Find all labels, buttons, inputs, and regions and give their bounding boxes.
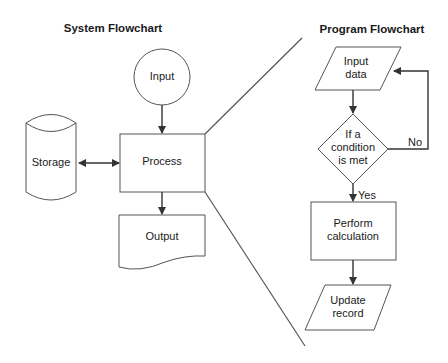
program-input-label-1: Input — [344, 55, 368, 67]
program-decision-label-2: condition — [331, 141, 375, 153]
system-process-label: Process — [142, 155, 182, 167]
program-input-label-2: data — [345, 68, 367, 80]
system-storage-label: Storage — [32, 156, 71, 168]
system-storage-node: Storage — [26, 115, 76, 201]
edge-label-no: No — [408, 136, 422, 148]
program-input-data-node: Input data — [315, 47, 401, 90]
program-decision-label-1: If a — [345, 128, 361, 140]
edge-label-yes: Yes — [358, 189, 376, 201]
program-decision-node: If a condition is met — [318, 114, 388, 184]
program-calculation-node: Perform calculation — [311, 202, 396, 260]
program-flowchart-title: Program Flowchart — [320, 23, 425, 35]
program-flowchart: Program Flowchart Input data If a condit… — [305, 23, 428, 330]
program-calc-label-1: Perform — [333, 217, 372, 229]
program-update-label-2: record — [332, 307, 363, 319]
program-decision-label-3: is met — [338, 154, 367, 166]
program-update-label-1: Update — [330, 294, 365, 306]
system-input-node: Input — [134, 49, 190, 105]
system-output-label: Output — [145, 230, 178, 242]
flowchart-canvas: System Flowchart Input Process Storage O… — [0, 0, 448, 363]
program-calc-label-2: calculation — [327, 230, 379, 242]
program-update-record-node: Update record — [305, 285, 391, 330]
system-flowchart-title: System Flowchart — [64, 22, 163, 34]
system-process-node: Process — [120, 134, 205, 192]
system-output-node: Output — [119, 215, 205, 269]
system-flowchart: System Flowchart Input Process Storage O… — [26, 22, 205, 269]
zoom-line-bottom — [205, 192, 305, 346]
zoom-line-top — [205, 38, 302, 134]
system-input-label: Input — [150, 70, 174, 82]
